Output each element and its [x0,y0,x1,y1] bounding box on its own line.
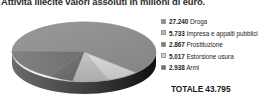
legend-value: 2.867 [169,41,185,48]
legend-item: 27.240 Droga [161,16,265,28]
legend-value: 5.733 [169,30,185,37]
chart-caption: Attività illecite valori assoluti in mil… [1,0,263,7]
pie-chart [8,12,160,97]
legend-label-text: Prostituzione [186,41,222,48]
legend-label-text: Impresa e appalti pubblici [186,30,257,37]
legend-value: 27.240 [169,18,188,25]
legend-item: 2.938 Armi [161,62,265,74]
legend-label-text: Estorsione usura [186,53,233,60]
chart-total: TOTALE 43.795 [171,84,230,94]
legend-label-text: Armi [186,64,199,71]
legend-value: 2.938 [169,64,185,71]
legend-item: 5.017 Estorsione usura [161,51,265,63]
legend-swatch-icon [161,19,166,24]
legend-swatch-icon [161,65,166,70]
legend-swatch-icon [161,30,166,35]
legend-swatch-icon [161,53,166,58]
legend-value: 5.017 [169,53,185,60]
legend-swatch-icon [161,42,166,47]
chart-legend: 27.240 Droga 5.733 Impresa e appalti pub… [161,16,265,74]
legend-item: 5.733 Impresa e appalti pubblici [161,28,265,40]
legend-label-text: Droga [190,18,207,25]
pie-chart-svg [8,12,160,97]
legend-item: 2.867 Prostituzione [161,39,265,51]
